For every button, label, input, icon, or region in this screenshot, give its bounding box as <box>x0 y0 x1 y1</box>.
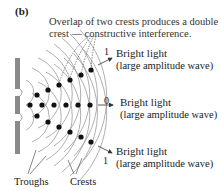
panel-label: (b) <box>15 5 28 17</box>
fringe-order-center: 0 <box>104 95 109 106</box>
crests-label: Crests <box>70 176 96 187</box>
fringe-sublabel-upper: (large amplitude wave) <box>116 60 213 72</box>
constructive-interference-points <box>27 67 93 144</box>
fringe-label-upper: Bright light <box>116 47 167 59</box>
fringe-order-lower: 1 <box>103 155 108 166</box>
caption-line-1: Overlap of two crests produces a double <box>49 16 218 28</box>
fringe-label-center: Bright light <box>120 96 171 108</box>
caption: Overlap of two crests produces a double … <box>49 16 218 40</box>
fringe-sublabel-lower: (large amplitude wave) <box>116 158 213 170</box>
fringe-label-lower: Bright light <box>116 145 167 157</box>
troughs-label: Troughs <box>14 176 49 187</box>
slit-barrier <box>15 58 22 154</box>
fringe-order-upper: 1 <box>104 46 109 57</box>
caption-line-2: crest — constructive interference. <box>49 28 218 40</box>
fringe-sublabel-center: (large amplitude wave) <box>120 109 217 121</box>
